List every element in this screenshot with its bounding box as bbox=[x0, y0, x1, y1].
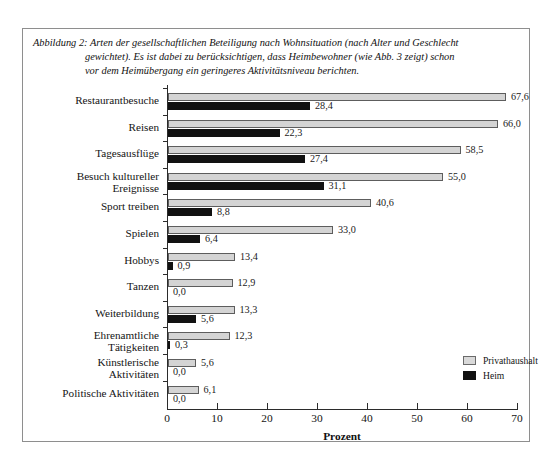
y-axis-tick bbox=[163, 274, 167, 275]
bar-value-label: 0,0 bbox=[173, 367, 186, 377]
x-axis-tick-label: 60 bbox=[461, 412, 472, 424]
legend-label-privathaushalt: Privathaushalt bbox=[483, 355, 538, 366]
x-axis-tick bbox=[267, 403, 268, 409]
x-axis-tick bbox=[467, 403, 468, 409]
bar-privathaushalt bbox=[168, 93, 506, 101]
x-axis-tick-label: 40 bbox=[361, 412, 372, 424]
x-axis-tick-label: 50 bbox=[411, 412, 422, 424]
y-axis-tick bbox=[163, 194, 167, 195]
y-axis-tick bbox=[163, 141, 167, 142]
category-label: KünstlerischeAktivitäten bbox=[97, 357, 159, 381]
bar-value-label: 22,3 bbox=[285, 128, 303, 138]
caption-line-3: vor dem Heimübergang ein geringeres Akti… bbox=[33, 64, 521, 78]
x-axis-tick-label: 20 bbox=[261, 412, 272, 424]
bar-value-label: 58,5 bbox=[466, 145, 484, 155]
category-label: EhrenamtlicheTätigkeiten bbox=[94, 330, 159, 354]
y-axis-tick bbox=[163, 221, 167, 222]
bar-value-label: 0,0 bbox=[173, 287, 186, 297]
bar-value-label: 27,4 bbox=[310, 154, 328, 164]
x-axis-tick bbox=[217, 403, 218, 409]
bar-value-label: 12,9 bbox=[238, 278, 256, 288]
bar-heim bbox=[168, 262, 173, 270]
y-axis-tick bbox=[163, 327, 167, 328]
x-axis-tick-label: 0 bbox=[164, 412, 170, 424]
figure-container: Abbildung 2: Arten der gesellschaftliche… bbox=[22, 28, 530, 442]
x-axis-line bbox=[167, 409, 518, 410]
y-axis-tick bbox=[163, 301, 167, 302]
bar-value-label: 40,6 bbox=[376, 198, 394, 208]
category-label: Besuch kulturellerEreignisse bbox=[77, 171, 159, 195]
bar-heim bbox=[168, 341, 170, 349]
bar-heim bbox=[168, 315, 196, 323]
legend-label-heim: Heim bbox=[483, 370, 504, 381]
y-axis-tick bbox=[163, 354, 167, 355]
x-axis-tick bbox=[317, 403, 318, 409]
category-label: Reisen bbox=[129, 121, 159, 133]
category-label: Weiterbildung bbox=[95, 307, 159, 319]
bar-value-label: 55,0 bbox=[448, 172, 466, 182]
bar-value-label: 8,8 bbox=[217, 207, 230, 217]
category-label: Tagesausflüge bbox=[95, 147, 159, 159]
bar-privathaushalt bbox=[168, 226, 333, 234]
x-axis-tick bbox=[167, 403, 168, 409]
bar-value-label: 0,3 bbox=[175, 340, 188, 350]
bar-value-label: 33,0 bbox=[338, 225, 356, 235]
bar-heim bbox=[168, 129, 280, 137]
x-axis-tick-label: 30 bbox=[311, 412, 322, 424]
y-axis-tick bbox=[163, 115, 167, 116]
bar-value-label: 66,0 bbox=[503, 119, 521, 129]
y-axis-tick bbox=[163, 168, 167, 169]
category-label: Tanzen bbox=[127, 280, 159, 292]
category-label: Sport treiben bbox=[101, 200, 159, 212]
x-axis-tick-label: 70 bbox=[511, 412, 522, 424]
bar-value-label: 0,9 bbox=[178, 261, 191, 271]
category-label: Restaurantbesuche bbox=[75, 94, 159, 106]
bar-privathaushalt bbox=[168, 120, 498, 128]
chart-plot-area: RestaurantbesucheReisenTagesausflügeBesu… bbox=[23, 85, 529, 441]
bar-value-label: 67,6 bbox=[511, 92, 529, 102]
legend-swatch-heim bbox=[463, 371, 476, 380]
bar-value-label: 12,3 bbox=[235, 331, 253, 341]
bar-value-label: 31,1 bbox=[329, 181, 347, 191]
category-label: Politische Aktivitäten bbox=[62, 387, 159, 399]
y-axis-tick bbox=[163, 381, 167, 382]
x-axis-tick-label: 10 bbox=[211, 412, 222, 424]
bar-heim bbox=[168, 208, 212, 216]
x-axis-tick bbox=[417, 403, 418, 409]
chart-axes: 010203040506070 67,628,466,022,358,527,4… bbox=[167, 85, 529, 441]
chart-legend: Privathaushalt Heim bbox=[463, 353, 552, 383]
category-label: Hobbys bbox=[124, 254, 159, 266]
bar-value-label: 13,4 bbox=[240, 252, 258, 262]
bar-value-label: 5,6 bbox=[201, 314, 214, 324]
bar-privathaushalt bbox=[168, 173, 443, 181]
category-axis-labels: RestaurantbesucheReisenTagesausflügeBesu… bbox=[23, 85, 163, 409]
legend-item-privathaushalt: Privathaushalt bbox=[463, 353, 552, 368]
category-label: Spielen bbox=[125, 227, 159, 239]
figure-caption: Abbildung 2: Arten der gesellschaftliche… bbox=[33, 36, 521, 79]
bar-heim bbox=[168, 102, 310, 110]
y-axis-tick bbox=[163, 88, 167, 89]
x-axis-tick bbox=[367, 403, 368, 409]
legend-item-heim: Heim bbox=[463, 368, 552, 383]
bar-heim bbox=[168, 182, 324, 190]
x-axis-tick bbox=[517, 403, 518, 409]
bar-value-label: 28,4 bbox=[315, 101, 333, 111]
bar-value-label: 6,4 bbox=[205, 234, 218, 244]
bar-heim bbox=[168, 235, 200, 243]
x-axis-title: Prozent bbox=[323, 430, 361, 442]
bar-value-label: 13,3 bbox=[240, 305, 258, 315]
legend-swatch-privathaushalt bbox=[463, 356, 476, 365]
bar-value-label: 5,6 bbox=[201, 358, 214, 368]
y-axis-tick bbox=[163, 248, 167, 249]
bar-heim bbox=[168, 155, 305, 163]
bar-value-label: 0,0 bbox=[173, 394, 186, 404]
bar-privathaushalt bbox=[168, 199, 371, 207]
caption-line-1: Abbildung 2: Arten der gesellschaftliche… bbox=[33, 36, 521, 50]
bar-value-label: 6,1 bbox=[204, 385, 217, 395]
caption-line-2: gewichtet). Es ist dabei zu berücksichti… bbox=[33, 50, 521, 64]
